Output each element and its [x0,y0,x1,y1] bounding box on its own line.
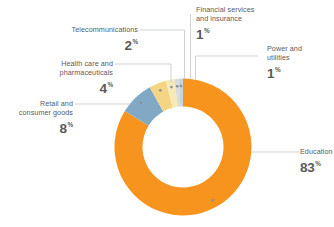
slice-label-health-line1: Health care and [60,59,113,68]
slice-label-telecommunications: Telecommunications 2% [72,25,138,53]
slice-label-power-line2: utilities [267,53,302,62]
leader-dot [180,85,183,88]
slice-label-financial-line1: Financial services [196,5,254,14]
slice-label-health-care: Health care and pharmaceuticals 4% [60,59,113,96]
leader-dot [170,86,173,89]
leader-telecommunications [140,30,185,79]
leader-dot [140,102,143,105]
slice-value-education: 83% [300,160,321,175]
slice-label-financial-line2: and insurance [196,14,254,23]
slice-label-retail: Retail and consumer goods 8% [19,99,73,136]
donut-slices [114,79,251,216]
slice-value-telecommunications: 2% [125,38,138,53]
leader-dot [176,85,179,88]
slice-label-health-line2: pharmaceuticals [60,68,113,77]
slice-label-education: Education 83% [300,147,333,175]
slice-label-power-and-utilities: Power and utilities 1% [267,44,302,81]
slice-label-power-line1: Power and [267,44,302,53]
slice-value-power-and-utilities: 1% [267,66,280,81]
leader-dot [159,89,162,92]
leader-dot [211,199,214,202]
leader-health-care [115,64,171,82]
leader-power-and-utilities [196,56,259,80]
slice-value-health-care: 4% [100,81,113,96]
donut-chart: Education 83% Power and utilities 1% Fin… [0,0,334,227]
slice-label-retail-line1: Retail and [19,99,73,108]
slice-value-financial-services: 1% [196,27,209,42]
slice-label-financial-services: Financial services and insurance 1% [196,5,254,42]
slice-label-education-line1: Education [300,147,333,156]
slice-value-retail: 8% [60,121,73,136]
slice-label-retail-line2: consumer goods [19,108,73,117]
slice-label-telecom-line1: Telecommunications [72,25,138,34]
